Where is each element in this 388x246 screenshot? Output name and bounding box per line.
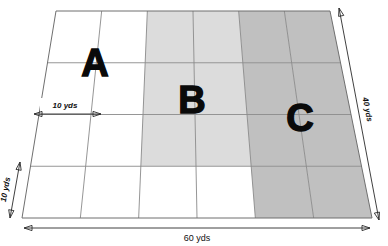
grid-cell [251, 166, 314, 218]
grid-cell [80, 166, 141, 218]
grid-cell [195, 115, 251, 167]
grid-cell [306, 166, 372, 218]
grid-cell [239, 11, 292, 63]
right-arrow-bottom [374, 212, 379, 220]
grid-cell [22, 166, 86, 218]
cell-width-label: 10 yds [53, 101, 78, 110]
grid-cell [86, 115, 143, 167]
grid-cell [145, 11, 194, 63]
grid-cell [31, 115, 92, 167]
grid-cell [196, 166, 255, 218]
region-label-c: C [286, 97, 313, 139]
cell-height-dimension: 10 yds [0, 162, 21, 218]
grid-cell [139, 166, 197, 218]
field-diagram: A B C 60 yds 40 yds 10 yds [0, 0, 388, 246]
right-dimension-label: 40 yds [360, 95, 374, 123]
region-label-a: A [81, 42, 108, 84]
cell-height-label: 10 yds [0, 176, 12, 203]
bottom-dimension-label: 60 yds [184, 233, 211, 243]
region-label-b: B [178, 79, 205, 121]
cell-height-line [10, 162, 20, 218]
grid-cell [193, 11, 243, 63]
field-perspective-svg: A B C 60 yds 40 yds 10 yds [0, 0, 388, 246]
grid-cell [141, 115, 196, 167]
bottom-dimension: 60 yds [24, 225, 370, 243]
